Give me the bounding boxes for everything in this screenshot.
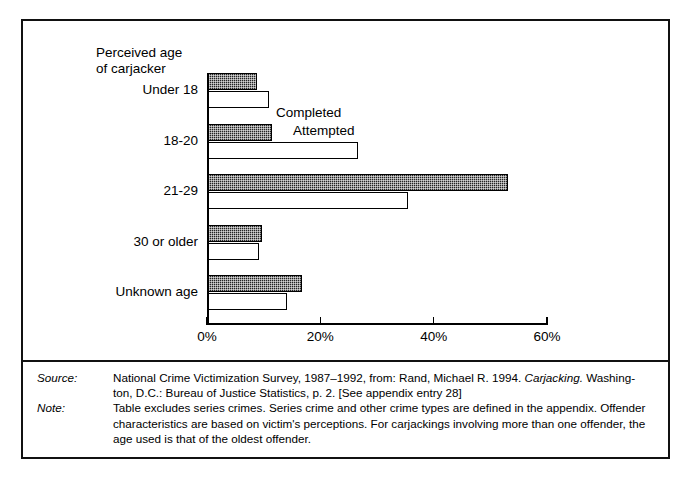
bar-group: 21-29: [207, 174, 547, 212]
bar-attempted: [208, 91, 269, 108]
x-axis-tick: [546, 317, 548, 325]
bar-attempted: [208, 192, 408, 209]
source-title-italic: Carjacking.: [524, 371, 582, 384]
bar-completed: [208, 174, 508, 191]
category-label: 21-29: [163, 183, 198, 198]
plot-area: Under 1818-2021-2930 or olderUnknown age: [207, 73, 547, 323]
source-line1-a: National Crime Victimization Survey, 198…: [113, 371, 524, 384]
chart-axis-title: Perceived age of carjacker: [96, 45, 182, 77]
source-text: National Crime Victimization Survey, 198…: [113, 370, 654, 400]
x-axis-tick: [433, 317, 435, 325]
category-label: Under 18: [142, 82, 198, 97]
note-label: Note:: [37, 400, 113, 415]
chart-region: Perceived age of carjacker Under 1818-20…: [23, 21, 668, 360]
note-line1: Table excludes series crimes. Series cri…: [113, 401, 597, 414]
bar-group: 18-20: [207, 124, 547, 162]
category-label: 30 or older: [133, 234, 198, 249]
x-axis-tick-label: 20%: [307, 329, 334, 344]
x-axis-tick-label: 60%: [533, 329, 560, 344]
bar-completed: [208, 124, 272, 141]
figure-frame: Perceived age of carjacker Under 1818-20…: [21, 19, 670, 459]
bar-completed: [208, 225, 262, 242]
source-note-row: Source: National Crime Victimization Sur…: [37, 370, 654, 400]
note-text: Table excludes series crimes. Series cri…: [113, 400, 654, 446]
x-axis: 0%20%40%60%: [207, 323, 547, 359]
bar-attempted: [208, 293, 287, 310]
bar-group: Under 18: [207, 73, 547, 111]
category-label: Unknown age: [115, 284, 198, 299]
note-row: Note: Table excludes series crimes. Seri…: [37, 400, 654, 446]
x-axis-tick: [320, 317, 322, 325]
bar-completed: [208, 275, 302, 292]
category-label: 18-20: [163, 133, 198, 148]
bar-attempted: [208, 142, 358, 159]
notes-section: Source: National Crime Victimization Sur…: [23, 360, 668, 446]
x-axis-tick-label: 0%: [197, 329, 217, 344]
x-axis-line: [207, 323, 547, 325]
legend-item-completed: Completed: [276, 104, 355, 122]
x-axis-tick: [206, 317, 208, 325]
legend-item-attempted: Attempted: [293, 122, 355, 140]
bar-completed: [208, 73, 257, 90]
source-label: Source:: [37, 370, 113, 385]
bar-attempted: [208, 243, 259, 260]
source-line2: ton, D.C.: Bureau of Justice Statistics,…: [113, 386, 462, 399]
bar-group: 30 or older: [207, 225, 547, 263]
legend: Completed Attempted: [276, 104, 355, 140]
x-axis-tick-label: 40%: [420, 329, 447, 344]
source-line1-b: Washing-: [583, 371, 635, 384]
bar-group: Unknown age: [207, 275, 547, 313]
